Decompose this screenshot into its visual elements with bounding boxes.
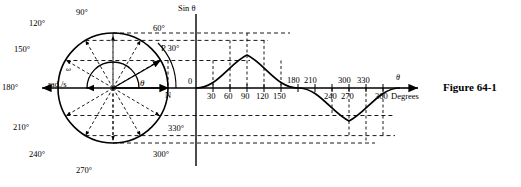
radius-vector-p <box>113 61 161 89</box>
omega-label: ω <box>66 66 71 73</box>
origin-label: 0 <box>188 77 192 86</box>
x-tick-180: 180 <box>287 76 300 85</box>
x-tick-330: 330 <box>357 76 370 85</box>
angle-label-60: 60° <box>153 24 165 33</box>
angle-label-120: 120° <box>29 19 45 28</box>
x-tick-360: 360 <box>375 92 388 101</box>
figure-caption: Figure 64-1 <box>443 82 497 93</box>
x-tick-210: 210 <box>304 76 317 85</box>
x-tick-120: 120 <box>256 92 269 101</box>
angle-label-210: 210° <box>13 123 29 132</box>
theta-label-circle: θ <box>140 79 144 88</box>
x-tick-300: 300 <box>338 76 351 85</box>
angle-label-90: 90° <box>76 8 88 17</box>
x-tick-240: 240 <box>324 92 337 101</box>
x-tick-90: 90 <box>241 92 250 101</box>
point-n-label: N <box>165 91 171 100</box>
x-tick-270: 270 <box>341 92 354 101</box>
angle-label-180: 180° <box>2 83 18 92</box>
angle-label-270: 270° <box>76 166 92 175</box>
x-tick-60: 60 <box>224 92 233 101</box>
rad-per-second-label: rad./s <box>48 80 67 89</box>
x-axis-units-label: Degrees <box>391 92 419 101</box>
x-tick-30: 30 <box>207 92 216 101</box>
x-tick-150: 150 <box>273 92 286 101</box>
angle-label-150: 150° <box>14 45 30 54</box>
angle-label-240: 240° <box>29 150 45 159</box>
point-p-label: P 30° <box>161 44 179 53</box>
y-axis-label: Sin θ <box>178 4 196 13</box>
angle-label-330: 330° <box>168 124 184 133</box>
angle-label-300: 300° <box>153 150 169 159</box>
figure-64-1: 90° 60° 120° 150° 180° 210° 240° 270° 30… <box>0 0 521 187</box>
x-axis-label: θ <box>396 74 400 82</box>
